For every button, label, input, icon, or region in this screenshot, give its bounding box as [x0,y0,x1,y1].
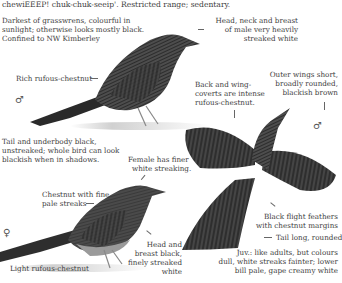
label-light-rufous-chestnut: Light rufous-chestnut [10,264,89,274]
label-chestnut-fine-streaks-2: pale streaks [42,199,86,209]
female-symbol: ♀ [3,227,10,238]
leader-line [86,203,94,204]
label-head-breast-black-4: white [128,267,182,277]
label-female-finer-streaking-2: white streaking. [132,164,191,174]
